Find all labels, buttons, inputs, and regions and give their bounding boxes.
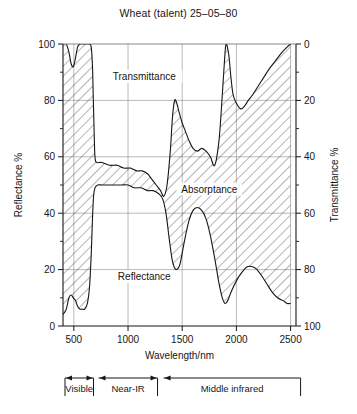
chart-svg: 0204060801000204060801005001000150020002… [0,0,357,414]
left-tick-label: 40 [44,208,56,219]
band-middle-infrared-label: Middle infrared [201,383,264,394]
right-tick-label: 100 [304,321,321,332]
right-tick-label: 60 [304,208,316,219]
band-visible: Visible [65,375,94,396]
x-tick-label: 2000 [225,334,248,345]
band-near-ir: Near-IR [99,375,158,396]
absorptance-label: Absorptance [181,184,238,195]
chart-title: Wheat (talent) 25–05–80 [0,7,357,19]
right-tick-label: 80 [304,264,316,275]
left-tick-label: 0 [49,321,55,332]
left-tick-label: 80 [44,95,56,106]
right-tick-label: 40 [304,151,316,162]
band-visible-right-arrow [87,375,93,380]
band-visible-left-arrow [66,375,72,380]
spectrum-band-legend: VisibleNear-IRMiddle infrared [65,375,301,396]
left-tick-label: 100 [38,39,55,50]
band-middle-infrared-left-arrow [165,375,171,380]
right-tick-label: 0 [304,39,310,50]
y-axis-title-right: Transmittance % [329,148,340,223]
transmittance-label: Transmittance [113,71,176,82]
band-middle-infrared: Middle infrared [164,375,301,396]
x-tick-label: 500 [65,334,82,345]
band-visible-label: Visible [65,383,93,394]
band-near-ir-left-arrow [100,375,106,380]
x-tick-label: 1000 [117,334,140,345]
x-tick-label: 1500 [171,334,194,345]
right-tick-label: 20 [304,95,316,106]
left-tick-label: 20 [44,264,56,275]
left-tick-label: 60 [44,151,56,162]
x-axis-title: Wavelength/nm [145,350,214,361]
reflectance-label: Reflectance [118,271,171,282]
x-tick-label: 2500 [279,334,302,345]
band-near-ir-label: Near-IR [111,383,144,394]
y-axis-title-left: Reflectance % [13,153,24,218]
chart-figure: Wheat (talent) 25–05–80 0204060801000204… [0,0,357,414]
band-near-ir-right-arrow [151,375,157,380]
